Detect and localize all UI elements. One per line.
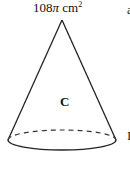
- area-value: 108: [33, 0, 53, 15]
- cone-drawing: [0, 0, 130, 175]
- area-unit: cm: [59, 0, 78, 15]
- base-back-dashed: [8, 130, 116, 140]
- area-exponent: 2: [78, 0, 82, 9]
- edge-fragment-top: a: [127, 2, 130, 18]
- cone-left-edge: [8, 20, 62, 140]
- shape-label: C: [60, 94, 69, 110]
- area-label: 108π cm2: [33, 0, 82, 16]
- base-front: [8, 140, 116, 150]
- cone-right-edge: [62, 20, 116, 140]
- edge-fragment-bottom: I: [127, 128, 130, 144]
